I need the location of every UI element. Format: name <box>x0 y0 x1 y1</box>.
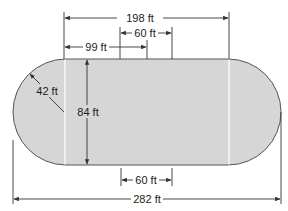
label-straight-length: 198 ft <box>126 12 154 24</box>
label-width: 84 ft <box>77 106 98 118</box>
label-segment-bottom: 60 ft <box>135 174 156 186</box>
track-shape <box>13 59 281 165</box>
label-segment-top: 60 ft <box>134 27 155 39</box>
track-diagram: 198 ft 60 ft 99 ft 84 ft 42 ft 60 ft 282… <box>0 0 288 211</box>
label-half-length: 99 ft <box>85 41 106 53</box>
label-total-length: 282 ft <box>133 193 161 205</box>
label-radius: 42 ft <box>36 85 57 97</box>
